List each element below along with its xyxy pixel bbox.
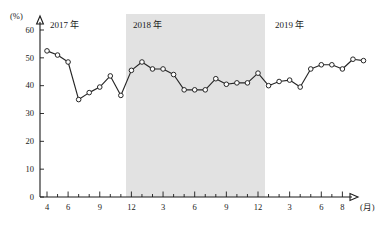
y-tick-label: 30 bbox=[12, 109, 34, 118]
x-tick-label: 3 bbox=[154, 203, 172, 212]
x-tick-label: 9 bbox=[91, 203, 109, 212]
x-tick-label: 6 bbox=[186, 203, 204, 212]
y-tick-label: 10 bbox=[12, 165, 34, 174]
data-point-marker bbox=[161, 67, 166, 72]
data-point-marker bbox=[287, 78, 292, 83]
x-tick-label: 6 bbox=[59, 203, 77, 212]
data-point-marker bbox=[150, 67, 155, 72]
y-tick-label: 0 bbox=[12, 193, 34, 202]
data-point-marker bbox=[340, 67, 345, 72]
data-point-marker bbox=[66, 60, 71, 65]
data-point-marker bbox=[119, 93, 124, 98]
x-tick-label: 4 bbox=[38, 203, 56, 212]
y-axis-ticks bbox=[40, 30, 44, 197]
data-point-marker bbox=[351, 57, 356, 62]
year-label-2018: 2018 年 bbox=[133, 21, 162, 30]
x-axis-unit-label: (月) bbox=[360, 203, 375, 212]
data-point-marker bbox=[76, 97, 81, 102]
y-axis-unit-label: (%) bbox=[10, 12, 23, 21]
data-point-marker bbox=[266, 83, 271, 88]
y-tick-label: 60 bbox=[12, 26, 34, 35]
data-point-marker bbox=[308, 67, 313, 72]
data-point-marker bbox=[235, 81, 240, 86]
data-point-marker bbox=[277, 79, 282, 84]
x-tick-label: 9 bbox=[217, 203, 235, 212]
x-tick-label: 12 bbox=[249, 203, 267, 212]
x-tick-label: 6 bbox=[312, 203, 330, 212]
data-point-marker bbox=[245, 81, 250, 86]
data-point-marker bbox=[224, 82, 229, 87]
figure-caption bbox=[0, 229, 392, 240]
data-point-marker bbox=[214, 76, 219, 81]
data-point-marker bbox=[182, 88, 187, 93]
data-point-marker bbox=[87, 90, 92, 95]
x-tick-label: 12 bbox=[122, 203, 140, 212]
x-tick-label: 8 bbox=[333, 203, 351, 212]
data-point-marker bbox=[192, 88, 197, 93]
data-point-marker bbox=[97, 85, 102, 90]
data-point-marker bbox=[330, 62, 335, 67]
x-tick-label: 3 bbox=[281, 203, 299, 212]
data-point-marker bbox=[319, 62, 324, 67]
year-label-2019: 2019 年 bbox=[275, 21, 304, 30]
data-point-marker bbox=[171, 72, 176, 77]
data-point-marker bbox=[140, 60, 145, 65]
data-point-marker bbox=[45, 49, 50, 54]
data-point-marker bbox=[108, 74, 113, 79]
data-point-marker bbox=[129, 68, 134, 73]
y-tick-label: 50 bbox=[12, 54, 34, 63]
data-point-marker bbox=[361, 58, 366, 63]
year-band-2018-shading bbox=[126, 14, 265, 197]
x-axis-ticks bbox=[47, 192, 342, 198]
data-point-marker bbox=[298, 85, 303, 90]
year-label-2017: 2017 年 bbox=[50, 21, 79, 30]
chart-figure: (%) (月) 2017 年 2018 年 2019 年 01020304050… bbox=[0, 0, 392, 240]
data-point-marker bbox=[256, 71, 261, 76]
y-tick-label: 20 bbox=[12, 137, 34, 146]
data-point-marker bbox=[203, 88, 208, 93]
y-tick-label: 40 bbox=[12, 81, 34, 90]
data-point-marker bbox=[55, 53, 60, 58]
